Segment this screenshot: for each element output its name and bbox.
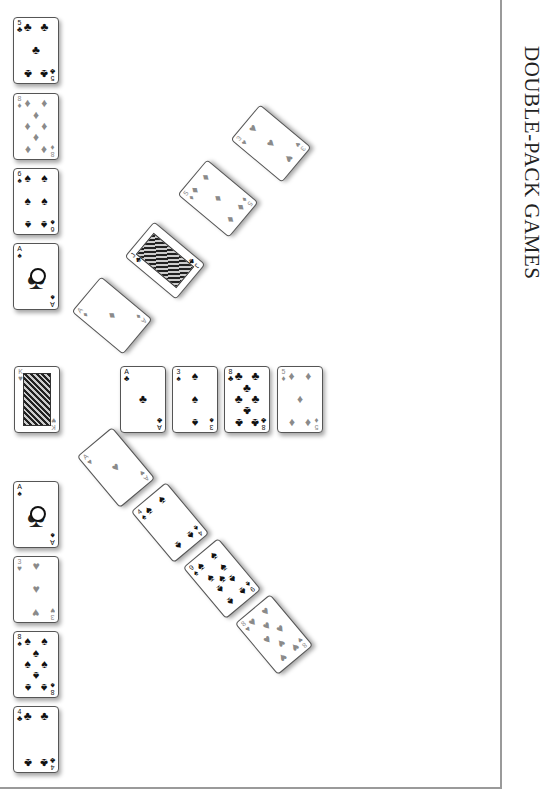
ornate-spade-icon: ♠ [27, 498, 45, 532]
suit-pip-icon: ♣ [137, 393, 149, 405]
card-rank: 5 [51, 75, 55, 82]
card-left-top-4: A♠A♠♠ [13, 243, 59, 310]
suit-pip-icon: ♠ [170, 537, 187, 554]
card-pips: ♦♦♦♦♦♦♦♦ [22, 99, 50, 154]
suit-pip-icon: ♦ [30, 109, 42, 121]
card-lower-diagonal-2: 4♠4♠♠♠♠♠ [131, 482, 209, 563]
card-lower-diagonal-3: 9♠9♠♠♠♠♠♠♠♠♠♠ [183, 538, 261, 619]
card-pips: ♦♦♦♦♦ [188, 170, 248, 227]
card-rank: 4 [51, 764, 55, 771]
suit-pip-icon: ♠ [22, 219, 34, 231]
suit-icon: ♠ [16, 490, 23, 497]
suit-icon: ♣ [156, 417, 163, 424]
card-index-top: A♠ [16, 483, 23, 497]
card-index-bottom: 8♣ [260, 417, 267, 431]
card-rank: 8 [51, 151, 55, 158]
card-left-top-1: 5♣5♣♣♣♣♣♣ [13, 17, 59, 84]
suit-pip-icon: ♦ [286, 370, 298, 382]
card-left-top-2: 8♦8♦♦♦♦♦♦♦♦♦ [13, 93, 59, 160]
suit-pip-icon: ♣ [249, 370, 261, 382]
card-index-bottom: 8♠ [49, 682, 56, 696]
card-pips: ♠♠♠♠♠♠♠♠ [22, 637, 50, 692]
suit-pip-icon: ♣ [22, 68, 34, 80]
card-index-bottom: K♥ [50, 417, 57, 431]
card-index-bottom: 8♦ [49, 144, 56, 158]
suit-icon: ♠ [49, 682, 56, 689]
suit-pip-icon: ♠ [38, 658, 50, 670]
card-rank: 3 [51, 614, 55, 621]
suit-icon: ♠ [49, 532, 56, 539]
suit-pip-icon: ♣ [38, 757, 50, 769]
suit-pip-icon: ♣ [30, 44, 42, 56]
card-rank: 8 [51, 689, 55, 696]
card-rank: A [50, 539, 55, 546]
card-left-bottom-4: 4♣4♣♣♣♣♣ [13, 706, 59, 773]
card-pips: ♥♥♥ [241, 115, 301, 172]
card-pips: ♥♥♥♥♥♥♥♥ [246, 604, 303, 664]
ornate-spade-icon: ♠ [27, 260, 45, 294]
card-index-top: A♠ [16, 245, 23, 259]
card-left-middle: K♥K♥ [14, 366, 60, 433]
suit-pip-icon: ♣ [38, 710, 50, 722]
card-pips: ♠♠♠♠ [142, 492, 199, 552]
suit-pip-icon: ♦ [222, 211, 239, 228]
suit-pip-icon: ♦ [38, 97, 50, 109]
suit-pip-icon: ♥ [280, 150, 297, 167]
suit-pip-icon: ♣ [38, 21, 50, 33]
card-center-row-3: 8♣8♣♣♣♣♣♣♣♣♣ [224, 366, 270, 433]
card-index-bottom: A♠ [49, 532, 56, 546]
suit-pip-icon: ♠ [38, 172, 50, 184]
suit-pip-icon: ♠ [189, 393, 201, 405]
suit-icon: ♠ [208, 417, 215, 424]
card-index-bottom: 6♠ [49, 219, 56, 233]
suit-pip-icon: ♦ [22, 120, 34, 132]
card-pips: ♥♥♥ [22, 562, 50, 617]
card-index-bottom: 5♣ [49, 68, 56, 82]
suit-pip-icon: ♦ [302, 417, 314, 429]
card-index-bottom: A♠ [49, 294, 56, 308]
suit-pip-icon: ♠ [22, 658, 34, 670]
card-rank: A [50, 301, 55, 308]
suit-pip-icon: ♦ [286, 417, 298, 429]
page-frame-right [500, 0, 502, 789]
card-pips: ♣♣♣♣♣♣♣♣ [233, 372, 261, 427]
card-left-top-3: 6♠6♠♠♠♠♠♠♠ [13, 168, 59, 235]
card-index-bottom: 5♦ [313, 417, 320, 431]
page-frame-bottom [0, 787, 502, 789]
suit-pip-icon: ♦ [302, 370, 314, 382]
suit-pip-icon: ♦ [22, 97, 34, 109]
suit-pip-icon: ♠ [38, 682, 50, 694]
suit-pip-icon: ♠ [22, 172, 34, 184]
card-pips: ♦♦♦♦♦ [286, 372, 314, 427]
card-upper-diagonal-2: J♣J♣ [125, 221, 206, 299]
suit-pip-icon: ♦ [209, 190, 226, 207]
card-pips: ♠♠♠♠♠♠♠♠♠ [194, 548, 251, 608]
card-left-bottom-2: 3♥3♥♥♥♥ [13, 556, 59, 623]
suit-pip-icon: ♠ [38, 219, 50, 231]
suit-pip-icon: ♠ [189, 417, 201, 429]
card-index-bottom: A♣ [156, 417, 163, 431]
card-rank: K [51, 424, 56, 431]
suit-icon: ♥ [50, 417, 57, 424]
suit-pip-icon: ♣ [22, 710, 34, 722]
suit-pip-icon: ♦ [197, 168, 214, 185]
suit-pip-icon: ♣ [249, 417, 261, 429]
card-left-bottom-3: 8♠8♠♠♠♠♠♠♠♠♠ [13, 631, 59, 698]
suit-pip-icon: ♥ [30, 583, 42, 595]
suit-icon: ♣ [260, 417, 267, 424]
card-upper-diagonal-4: 3♥3♥♥♥♥ [231, 104, 312, 182]
card-pips: ♦ [82, 287, 142, 344]
suit-pip-icon: ♣ [22, 21, 34, 33]
card-left-bottom-1: A♠A♠♠ [13, 481, 59, 548]
suit-pip-icon: ♠ [222, 593, 239, 610]
card-pips: ♥ [88, 437, 145, 497]
card-upper-diagonal-3: 5♦5♦♦♦♦♦♦ [178, 159, 259, 237]
suit-pip-icon: ♦ [38, 144, 50, 156]
suit-icon: ♣ [49, 757, 56, 764]
suit-pip-icon: ♠ [22, 635, 34, 647]
card-rank: 3 [210, 424, 214, 431]
suit-pip-icon: ♠ [38, 635, 50, 647]
suit-pip-icon: ♠ [30, 647, 42, 659]
suit-pip-icon: ♠ [189, 370, 201, 382]
suit-pip-icon: ♣ [38, 68, 50, 80]
